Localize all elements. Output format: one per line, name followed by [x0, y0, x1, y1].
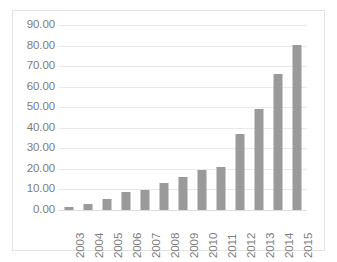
x-axis-tick-label: 2012: [246, 218, 258, 258]
y-axis-tick-label: 80.00: [13, 40, 55, 52]
bar[interactable]: [159, 183, 168, 210]
y-axis-tick-label: 20.00: [13, 163, 55, 175]
bar-slot: [212, 13, 231, 210]
x-axis-tick-label: 2010: [208, 218, 220, 258]
y-axis: 90.0080.0070.0060.0050.0040.0030.0020.00…: [13, 13, 59, 218]
y-axis-tick-label: 50.00: [13, 101, 55, 113]
chart-container: 90.0080.0070.0060.0050.0040.0030.0020.00…: [12, 10, 325, 251]
x-axis-tick-label: 2003: [75, 218, 87, 258]
bar-series: [59, 13, 307, 218]
bar[interactable]: [140, 190, 149, 210]
y-axis-tick-label: 60.00: [13, 81, 55, 93]
x-axis-tick-label: 2006: [132, 218, 144, 258]
y-axis-tick-label: 70.00: [13, 60, 55, 72]
bar-slot: [59, 13, 78, 210]
bar-slot: [154, 13, 173, 210]
y-axis-tick-label: 0.00: [13, 204, 55, 216]
bar[interactable]: [64, 207, 73, 210]
bar-slot: [116, 13, 135, 210]
bar-slot: [193, 13, 212, 210]
x-axis-tick-label: 2011: [227, 218, 239, 258]
bar-slot: [97, 13, 116, 210]
y-axis-tick-label: 90.00: [13, 19, 55, 31]
bar-slot: [173, 13, 192, 210]
bar[interactable]: [178, 177, 187, 210]
bar[interactable]: [255, 109, 264, 210]
x-axis-tick-label: 2013: [265, 218, 277, 258]
x-axis-tick-label: 2014: [284, 218, 296, 258]
bar[interactable]: [83, 204, 92, 210]
bar-slot: [269, 13, 288, 210]
bar[interactable]: [293, 45, 302, 210]
bar-slot: [78, 13, 97, 210]
x-axis-tick-label: 2007: [151, 218, 163, 258]
bar-slot: [288, 13, 307, 210]
x-axis-tick-label: 2005: [113, 218, 125, 258]
x-axis-tick-label: 2009: [189, 218, 201, 258]
bar[interactable]: [274, 74, 283, 210]
bar-slot: [135, 13, 154, 210]
y-axis-tick-label: 40.00: [13, 122, 55, 134]
bar[interactable]: [236, 134, 245, 210]
y-axis-tick-label: 30.00: [13, 142, 55, 154]
plot-area: [59, 13, 307, 218]
x-axis: 2003200420052006200720082009201020112012…: [59, 216, 307, 262]
bar[interactable]: [121, 192, 130, 211]
bar[interactable]: [217, 167, 226, 210]
x-axis-tick-label: 2015: [303, 218, 315, 258]
x-axis-tick-label: 2004: [94, 218, 106, 258]
bar[interactable]: [102, 199, 111, 210]
bar-slot: [250, 13, 269, 210]
y-axis-tick-label: 10.00: [13, 183, 55, 195]
bar[interactable]: [198, 170, 207, 210]
bar-slot: [231, 13, 250, 210]
x-axis-tick-label: 2008: [170, 218, 182, 258]
